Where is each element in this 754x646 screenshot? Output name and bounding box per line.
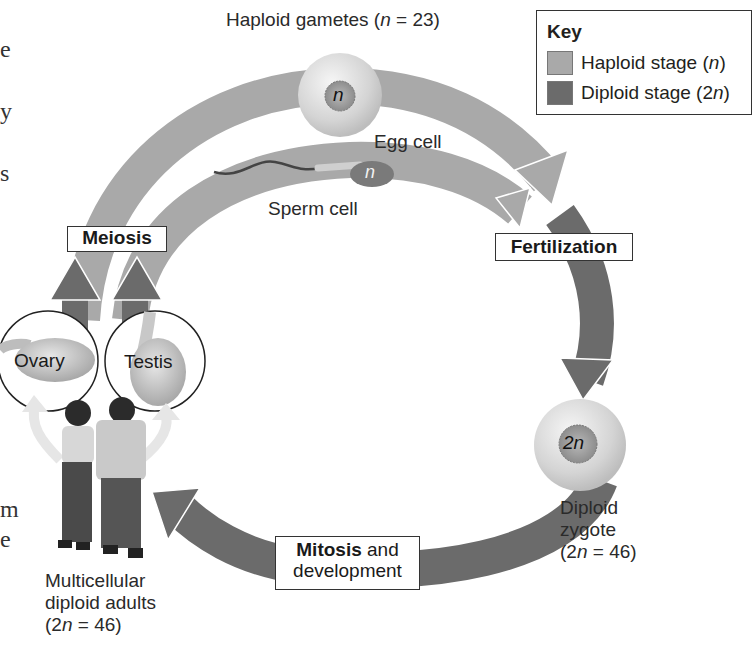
zygote-ploidy-symbol: n <box>577 541 588 562</box>
zygote-ploidy-suffix: = 46) <box>587 541 636 562</box>
title-text: Haploid gametes <box>226 9 369 30</box>
zygote-label-line1: Diploid <box>560 497 637 519</box>
haploid-swatch <box>547 51 573 75</box>
sperm-haploid-arc <box>130 160 530 320</box>
egg-nucleus-label: n <box>333 84 344 106</box>
diploid-swatch <box>547 81 573 105</box>
key-item-haploid: Haploid stage (n) <box>547 51 726 75</box>
adults-ploidy-suffix: = 46) <box>72 614 121 635</box>
meiosis-box: Meiosis <box>67 226 167 252</box>
adults-label-line3: (2n = 46) <box>45 614 156 636</box>
zygote-label: Diploid zygote (2n = 46) <box>560 497 637 563</box>
mitosis-bold-text: Mitosis <box>296 539 361 560</box>
mitosis-development-box: Mitosis and development <box>275 536 420 590</box>
zygote-label-line2: zygote <box>560 519 637 541</box>
key-suffix: ) <box>724 82 730 103</box>
adults-label-line2: diploid adults <box>45 592 156 614</box>
adults-ploidy-symbol: n <box>62 614 73 635</box>
key-label-text: Diploid stage (2 <box>581 82 713 103</box>
title-value: = 23) <box>391 9 440 30</box>
key-label-haploid: Haploid stage (n) <box>581 52 726 74</box>
sperm-cell-label: Sperm cell <box>268 198 358 220</box>
sperm-nucleus-label: n <box>365 162 375 183</box>
key-label-text: Haploid stage ( <box>581 52 709 73</box>
key-symbol: n <box>709 52 720 73</box>
mitosis-line1: Mitosis and <box>276 539 419 560</box>
title-n-symbol: n <box>380 9 391 30</box>
zygote-label-line3: (2n = 46) <box>560 541 637 563</box>
adults-label: Multicellular diploid adults (2n = 46) <box>45 570 156 636</box>
adults-ploidy-prefix: (2 <box>45 614 62 635</box>
key-suffix: ) <box>719 52 725 73</box>
zygote-nucleus-label: 2n <box>563 432 584 454</box>
zygote-ploidy-prefix: (2 <box>560 541 577 562</box>
adults-label-line1: Multicellular <box>45 570 156 592</box>
key-symbol: n <box>713 82 724 103</box>
adults-figure <box>58 397 146 558</box>
key-item-diploid: Diploid stage (2n) <box>547 81 730 105</box>
haploid-gametes-title: Haploid gametes (n = 23) <box>226 9 440 31</box>
fertilization-box: Fertilization <box>495 233 633 261</box>
key-label-diploid: Diploid stage (2n) <box>581 82 730 104</box>
testis-label: Testis <box>124 351 173 373</box>
egg-cell-label: Egg cell <box>374 131 442 153</box>
mitosis-rest-text: and <box>362 539 399 560</box>
ovary-label: Ovary <box>14 350 65 372</box>
key-title: Key <box>547 21 582 43</box>
mitosis-line2: development <box>276 560 419 581</box>
legend-key: Key Haploid stage (n) Diploid stage (2n) <box>536 10 752 115</box>
